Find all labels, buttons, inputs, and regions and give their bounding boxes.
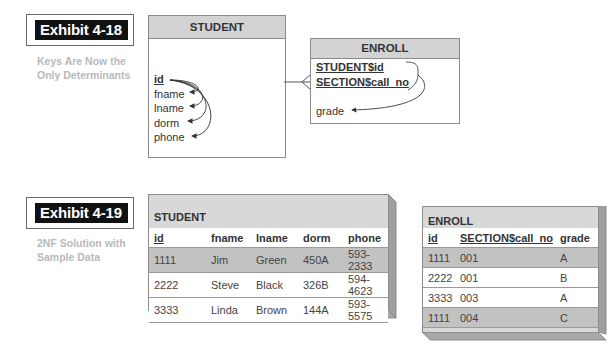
cell: C: [555, 308, 598, 328]
cell: 144A: [298, 298, 343, 323]
cell: 593-2333: [343, 248, 388, 273]
caption-line: 2NF Solution with: [37, 236, 147, 250]
cell: Steve: [206, 273, 251, 298]
cell: 003: [455, 288, 555, 308]
col-id: id: [149, 228, 206, 248]
cell: 450A: [298, 248, 343, 273]
cell: 001: [455, 248, 555, 268]
col-fname: fname: [206, 228, 251, 248]
cell: A: [555, 288, 598, 308]
cell: B: [555, 268, 598, 288]
caption-line: Sample Data: [37, 250, 147, 264]
table-row: 2222 Steve Black 326B 594-4623: [149, 273, 388, 298]
cell: Green: [251, 248, 298, 273]
cell: 004: [455, 308, 555, 328]
enroll-table-title: ENROLL: [428, 215, 473, 227]
cell: Linda: [206, 298, 251, 323]
cell: 3333: [423, 288, 455, 308]
exhibit-4-19-caption: 2NF Solution with Sample Data: [37, 236, 147, 264]
cell: 001: [455, 268, 555, 288]
enroll-table: ENROLL id SECTION$call_no grade 1111 001…: [422, 206, 606, 342]
cell: 2222: [149, 273, 206, 298]
table-row: 3333 Linda Brown 144A 593-5575: [149, 298, 388, 323]
col-dorm: dorm: [298, 228, 343, 248]
col-grade: grade: [555, 228, 598, 248]
col-lname: lname: [251, 228, 298, 248]
student-table: STUDENT id fname lname dorm phone 1111 J…: [148, 194, 396, 320]
table-row: 1111 Jim Green 450A 593-2333: [149, 248, 388, 273]
cell: 326B: [298, 273, 343, 298]
cell: A: [555, 248, 598, 268]
cell: Brown: [251, 298, 298, 323]
cell: Black: [251, 273, 298, 298]
exhibit-label: Exhibit 4-19: [35, 203, 128, 223]
col-phone: phone: [343, 228, 388, 248]
col-section-call-no: SECTION$call_no: [455, 228, 555, 248]
student-table-title: STUDENT: [154, 211, 206, 223]
table-row: 1111 001 A: [423, 248, 598, 268]
cell: 594-4623: [343, 273, 388, 298]
cell: 593-5575: [343, 298, 388, 323]
table-row: 3333 003 A: [423, 288, 598, 308]
cell: Jim: [206, 248, 251, 273]
table-row: 2222 001 B: [423, 268, 598, 288]
cell: 3333: [149, 298, 206, 323]
col-id: id: [423, 228, 455, 248]
cell: 1111: [149, 248, 206, 273]
exhibit-4-19-badge: Exhibit 4-19: [26, 197, 134, 229]
cell: 1111: [423, 308, 455, 328]
cell: 2222: [423, 268, 455, 288]
cell: 1111: [423, 248, 455, 268]
table-row: 1111 004 C: [423, 308, 598, 328]
